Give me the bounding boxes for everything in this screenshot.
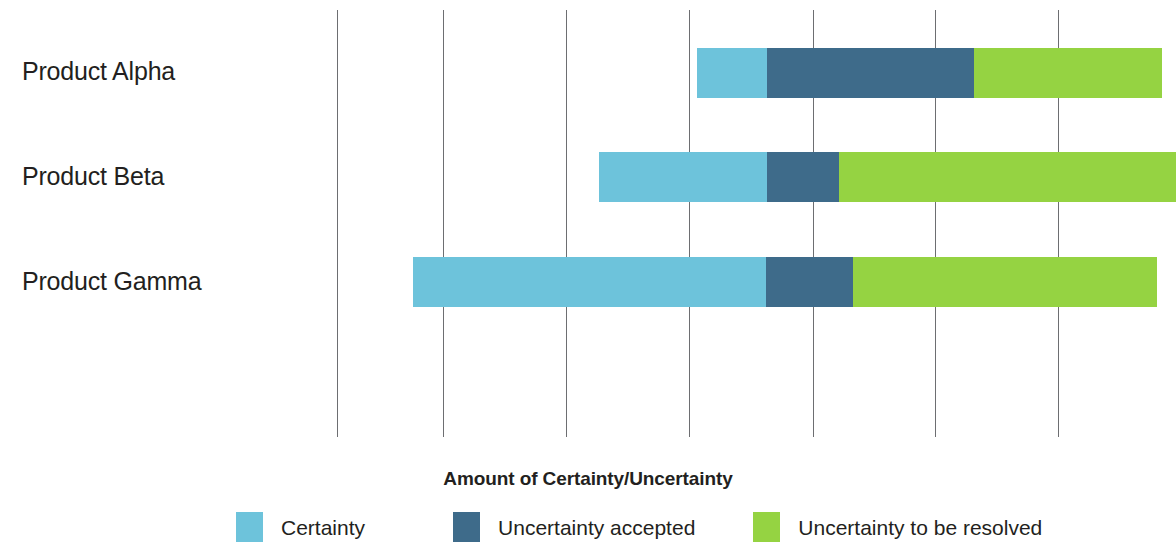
bar-segment-product-alpha-uncertainty-to-be-resolved[interactable]: [974, 48, 1162, 98]
bar-segment-product-beta-uncertainty-accepted[interactable]: [767, 152, 839, 202]
bar-segment-product-alpha-certainty[interactable]: [697, 48, 767, 98]
legend-item-certainty[interactable]: Certainty: [236, 512, 365, 542]
gridline-1: [337, 10, 338, 437]
bar-segment-product-beta-uncertainty-to-be-resolved[interactable]: [839, 152, 1176, 202]
axis-title: Amount of Certainty/Uncertainty: [0, 468, 1176, 490]
legend-swatch-certainty: [236, 512, 263, 542]
legend-label-uncertainty-to-be-resolved: Uncertainty to be resolved: [798, 517, 1042, 538]
legend-swatch-uncertainty-accepted: [453, 512, 480, 542]
legend-label-certainty: Certainty: [281, 517, 365, 538]
bar-segment-product-gamma-uncertainty-accepted[interactable]: [766, 257, 853, 307]
gridline-4: [689, 10, 690, 437]
bar-row-product-gamma[interactable]: [413, 257, 1157, 307]
chart-legend: Certainty Uncertainty accepted Uncertain…: [236, 512, 1042, 542]
bar-row-product-alpha[interactable]: [697, 48, 1162, 98]
legend-item-uncertainty-accepted[interactable]: Uncertainty accepted: [453, 512, 695, 542]
category-label-product-gamma: Product Gamma: [22, 269, 201, 294]
bar-row-product-beta[interactable]: [599, 152, 1176, 202]
gridline-3: [566, 10, 567, 437]
bar-segment-product-alpha-uncertainty-accepted[interactable]: [767, 48, 974, 98]
category-label-product-alpha: Product Alpha: [22, 59, 175, 84]
bar-segment-product-gamma-uncertainty-to-be-resolved[interactable]: [853, 257, 1157, 307]
bar-segment-product-beta-certainty[interactable]: [599, 152, 767, 202]
chart-plot-area: Product Alpha Product Beta Product Gamma: [0, 0, 1176, 450]
bar-segment-product-gamma-certainty[interactable]: [413, 257, 766, 307]
legend-item-uncertainty-to-be-resolved[interactable]: Uncertainty to be resolved: [753, 512, 1042, 542]
legend-swatch-uncertainty-to-be-resolved: [753, 512, 780, 542]
legend-label-uncertainty-accepted: Uncertainty accepted: [498, 517, 695, 538]
gridline-2: [443, 10, 444, 437]
category-label-product-beta: Product Beta: [22, 164, 164, 189]
